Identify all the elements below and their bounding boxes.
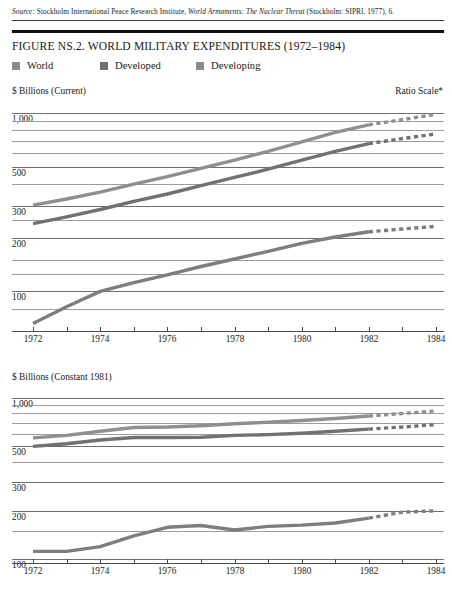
x-axis-tick [268,327,269,331]
source-publication-title: World Armaments: The Nuclear Threat [188,7,305,16]
series-line-world-projected [369,411,436,416]
x-axis-line [12,563,444,564]
x-axis-tick-label: 1980 [293,566,312,576]
figure-title: FIGURE NS.2. WORLD MILITARY EXPENDITURES… [12,40,345,53]
x-axis-tick [67,327,68,331]
lower-plot-area: 1,00050030020010019721974197619781980198… [12,385,444,563]
x-axis-tick [201,327,202,331]
x-axis-tick-label: 1974 [91,566,110,576]
divider-thick [12,30,444,33]
x-axis-tick [33,327,34,331]
x-axis-tick [302,327,303,331]
x-axis-tick [134,559,135,563]
source-label: Source: [12,7,35,16]
chart-current-dollars: $ Billions (Current) Ratio Scale* 1,0005… [0,86,452,356]
x-axis-tick [436,559,437,563]
legend-swatch-icon [100,62,108,70]
series-line-world-projected [369,114,436,125]
x-axis-tick [167,559,168,563]
series-layer [12,99,444,331]
x-axis-tick [369,327,370,331]
legend-label: World [27,60,53,71]
x-axis-tick [335,559,336,563]
x-axis-tick-label: 1972 [24,566,43,576]
x-axis-tick-label: 1982 [360,334,379,344]
series-line-world [33,125,369,205]
source-note: Source: Stockholm International Peace Re… [12,6,444,17]
legend-swatch-icon [196,62,204,70]
x-axis-tick [235,327,236,331]
source-body-before: Stockholm International Peace Research I… [35,7,188,16]
series-line-developed-projected [369,425,436,429]
x-axis-tick [402,327,403,331]
source-body-after: (Stockholm: SIPRI, 1977), 6. [305,7,394,16]
x-axis-tick [201,559,202,563]
series-line-developing [33,518,369,551]
series-line-world [33,416,369,438]
x-axis-tick [235,559,236,563]
x-axis-tick-label: 1978 [226,566,245,576]
x-axis-tick-label: 1976 [158,334,177,344]
lower-y-axis-title: $ Billions (Constant 1981) [12,372,112,382]
legend-label: Developing [211,60,260,71]
legend-swatch-icon [12,62,20,70]
legend-item-developing: Developing [196,60,260,71]
x-axis-tick-label: 1976 [158,566,177,576]
x-axis-tick [268,559,269,563]
x-axis-tick [369,559,370,563]
series-line-developing-projected [369,226,436,232]
x-axis-tick [402,559,403,563]
legend-label: Developed [115,60,161,71]
x-axis-tick-label: 1982 [360,566,379,576]
series-layer [12,385,444,563]
legend-item-world: World [12,60,53,71]
x-axis-tick [100,327,101,331]
chart-constant-dollars: $ Billions (Constant 1981) 1,00050030020… [0,372,452,591]
x-axis-tick-label: 1972 [24,334,43,344]
x-axis-tick-label: 1978 [226,334,245,344]
x-axis-tick [302,559,303,563]
x-axis-tick [33,559,34,563]
upper-plot-area: 1,00050030020010019721974197619781980198… [12,99,444,331]
upper-scale-annotation: Ratio Scale* [395,86,443,96]
divider-thin [12,20,444,21]
x-axis-tick [134,327,135,331]
x-axis-tick-label: 1980 [293,334,312,344]
upper-y-axis-title: $ Billions (Current) [12,86,86,96]
x-axis-tick [100,559,101,563]
chart-legend: WorldDevelopedDeveloping [12,60,444,76]
x-axis-tick [335,327,336,331]
figure-page: { "source": { "label": "Source:", "body_… [0,0,452,591]
x-axis-tick-label: 1984 [427,566,446,576]
x-axis-line [12,331,444,332]
series-line-developed-projected [369,134,436,144]
x-axis-tick [436,327,437,331]
legend-item-developed: Developed [100,60,161,71]
x-axis-tick [67,559,68,563]
series-line-developed [33,144,369,224]
x-axis-tick [167,327,168,331]
x-axis-tick-label: 1984 [427,334,446,344]
series-line-developing [33,232,369,324]
x-axis-tick-label: 1974 [91,334,110,344]
series-line-developing-projected [369,511,436,518]
